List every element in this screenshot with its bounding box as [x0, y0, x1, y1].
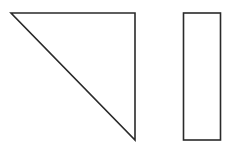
diagram-canvas: [0, 0, 236, 146]
tall-rectangle-shape: [184, 13, 221, 140]
right-triangle-shape: [11, 13, 135, 140]
